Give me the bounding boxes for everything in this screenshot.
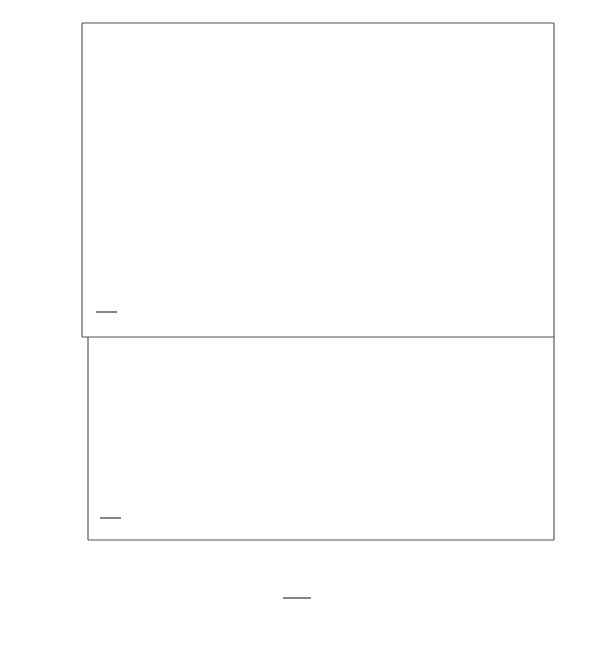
top-panel (82, 23, 554, 337)
ratio-label-top (0, 0, 117, 312)
x-axis-label (0, 0, 311, 598)
figure (0, 0, 589, 650)
bottom-panel (88, 337, 554, 540)
ratio-label-bottom (0, 0, 121, 518)
